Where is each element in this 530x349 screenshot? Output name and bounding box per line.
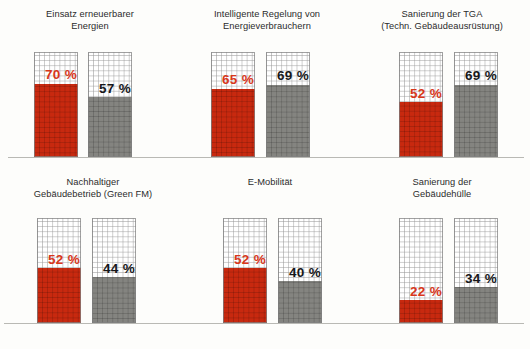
group-title: Sanierung der TGA (Techn. Gebäudeausrüst… xyxy=(358,8,526,32)
bar-fill-gray xyxy=(92,277,136,323)
bar-fill-gray xyxy=(266,85,310,158)
bar-track xyxy=(88,52,132,157)
bar-pair: 52 % 69 % xyxy=(358,52,526,157)
bar-gray[interactable]: 44 % xyxy=(92,218,136,323)
bar-value-label: 52 % xyxy=(38,252,90,267)
bar-red[interactable]: 70 % xyxy=(34,52,78,157)
bar-pair: 70 % 57 % xyxy=(8,52,172,157)
bar-gray[interactable]: 69 % xyxy=(266,52,310,157)
bar-track xyxy=(399,218,443,323)
bar-value-label: 52 % xyxy=(224,252,276,267)
chart-group-intelligente-regelung: Intelligente Regelung von Energieverbrau… xyxy=(181,0,353,157)
bar-track xyxy=(211,52,255,157)
group-title: Sanierung der Gebäudehülle xyxy=(358,176,526,200)
bar-fill-gray xyxy=(278,281,322,323)
chart-group-nachhaltiger-gebaeudebetrieb: Nachhaltiger Gebäudebetrieb (Green FM) 5… xyxy=(8,168,178,323)
bar-value-label: 52 % xyxy=(400,86,452,101)
baseline-rule-top xyxy=(8,157,524,158)
bar-red[interactable]: 22 % xyxy=(399,218,443,323)
chart-group-einsatz-erneuerbarer-energien: Einsatz erneuerbarer Energien 70 % 57 % xyxy=(8,0,172,157)
bar-value-label: 34 % xyxy=(455,271,507,286)
bar-fill-gray xyxy=(454,85,498,158)
bar-value-label: 44 % xyxy=(93,261,145,276)
bar-value-label: 70 % xyxy=(35,67,87,82)
bar-pair: 52 % 44 % xyxy=(8,218,178,323)
chart-group-sanierung-der-gebaeudehuelle: Sanierung der Gebäudehülle 22 % 34 % xyxy=(358,168,526,323)
bar-track xyxy=(399,52,443,157)
bar-fill-gray xyxy=(454,287,498,323)
bar-fill-red xyxy=(399,102,443,157)
chart-row-top: Einsatz erneuerbarer Energien 70 % 57 % xyxy=(0,0,530,172)
group-title: E-Mobilität xyxy=(186,176,354,188)
bar-track xyxy=(37,218,81,323)
bar-track xyxy=(223,218,267,323)
bar-value-label: 40 % xyxy=(279,265,331,280)
bar-gray[interactable]: 57 % xyxy=(88,52,132,157)
bar-red[interactable]: 52 % xyxy=(399,52,443,157)
bar-fill-red xyxy=(223,268,267,323)
group-title: Nachhaltiger Gebäudebetrieb (Green FM) xyxy=(8,176,178,200)
chart-row-bottom: Nachhaltiger Gebäudebetrieb (Green FM) 5… xyxy=(0,168,530,349)
bar-red[interactable]: 52 % xyxy=(37,218,81,323)
bar-gray[interactable]: 40 % xyxy=(278,218,322,323)
bar-fill-red xyxy=(37,268,81,323)
bar-gray[interactable]: 34 % xyxy=(454,218,498,323)
bar-chart-panel: Einsatz erneuerbarer Energien 70 % 57 % xyxy=(0,0,530,349)
bar-value-label: 22 % xyxy=(400,284,452,299)
chart-group-sanierung-der-tga: Sanierung der TGA (Techn. Gebäudeausrüst… xyxy=(358,0,526,157)
bar-fill-red xyxy=(399,300,443,323)
group-title: Intelligente Regelung von Energieverbrau… xyxy=(181,8,353,32)
bar-value-label: 65 % xyxy=(212,72,264,87)
bar-value-label: 69 % xyxy=(455,68,507,83)
bar-red[interactable]: 65 % xyxy=(211,52,255,157)
bar-pair: 22 % 34 % xyxy=(358,218,526,323)
bar-fill-gray xyxy=(88,97,132,157)
bar-value-label: 69 % xyxy=(267,68,319,83)
bar-pair: 52 % 40 % xyxy=(186,218,354,323)
bar-fill-red xyxy=(34,84,78,158)
bar-pair: 65 % 69 % xyxy=(181,52,353,157)
bar-fill-red xyxy=(211,89,255,157)
group-title: Einsatz erneuerbarer Energien xyxy=(8,8,172,32)
baseline-rule-bottom xyxy=(4,323,524,324)
bar-gray[interactable]: 69 % xyxy=(454,52,498,157)
bar-value-label: 57 % xyxy=(89,81,141,96)
chart-group-e-mobilitaet: E-Mobilität 52 % 40 % xyxy=(186,168,354,323)
bar-red[interactable]: 52 % xyxy=(223,218,267,323)
